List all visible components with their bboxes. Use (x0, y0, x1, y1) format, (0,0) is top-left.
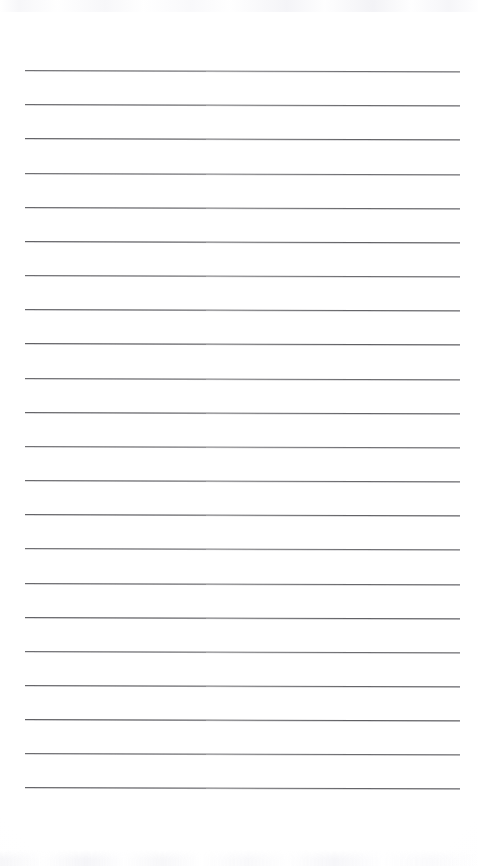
writing-area[interactable] (0, 0, 478, 866)
scanned-page (0, 0, 478, 866)
